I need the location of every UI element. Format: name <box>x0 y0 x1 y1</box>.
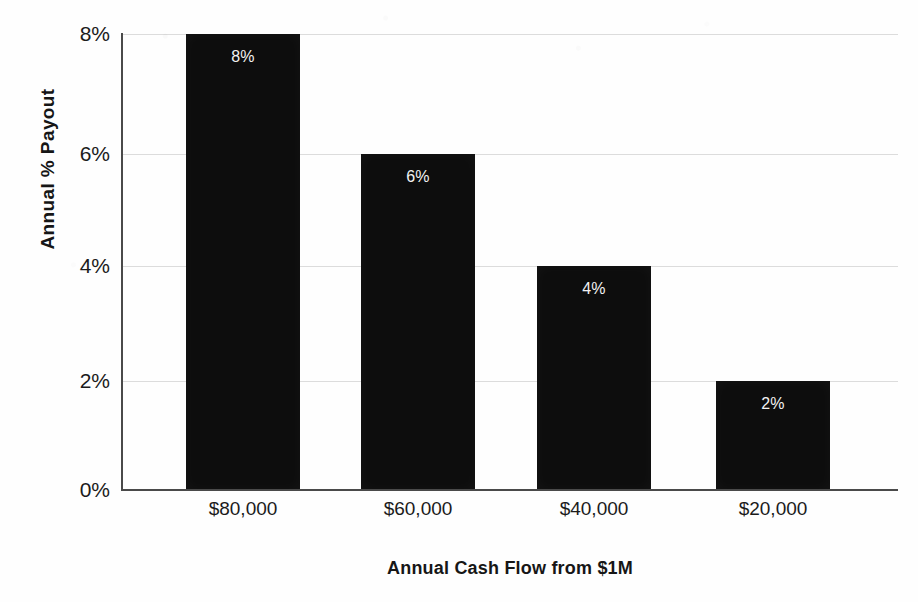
bar-40000[interactable]: 4% <box>537 266 651 490</box>
bar-chart-figure: Annual % Payout 8% 6% 4% 2% 0% 8% 6% 4% … <box>0 0 918 602</box>
bar-value-label: 2% <box>716 395 830 413</box>
bar-value-label: 6% <box>361 168 475 186</box>
x-axis-line <box>121 489 898 491</box>
bar-value-label: 4% <box>537 280 651 298</box>
bar-60000[interactable]: 6% <box>361 154 475 490</box>
bar-20000[interactable]: 2% <box>716 381 830 490</box>
y-axis-line <box>121 33 123 491</box>
bars-layer: 8% 6% 4% 2% <box>0 0 918 602</box>
bar-80000[interactable]: 8% <box>186 34 300 490</box>
bar-value-label: 8% <box>186 48 300 66</box>
